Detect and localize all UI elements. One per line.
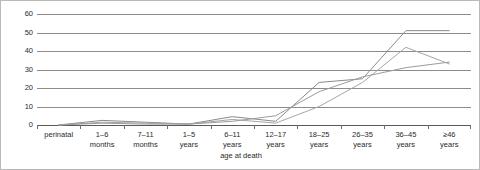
x-axis-title: age at death <box>1 151 480 160</box>
y-tick-label: 40 <box>7 47 33 55</box>
x-tick <box>470 125 471 129</box>
y-tick-label: 0 <box>7 121 33 129</box>
series-line <box>59 31 450 125</box>
x-tick <box>37 125 38 129</box>
plot-area <box>37 14 471 125</box>
x-tick-label: 12–17 years <box>254 130 297 149</box>
x-tick <box>297 125 298 129</box>
x-tick-label: 26–35 years <box>341 130 384 149</box>
x-tick <box>80 125 81 129</box>
x-tick-label: perinatal <box>37 130 80 140</box>
x-tick <box>384 125 385 129</box>
x-tick <box>124 125 125 129</box>
x-tick <box>428 125 429 129</box>
x-tick-label: 18–25 years <box>297 130 340 149</box>
x-tick <box>254 125 255 129</box>
x-tick <box>211 125 212 129</box>
series-line <box>59 62 450 125</box>
y-axis: 6050403020100 <box>1 14 33 125</box>
x-tick-label: 1–6 months <box>80 130 123 149</box>
x-tick <box>167 125 168 129</box>
series-line <box>59 47 450 125</box>
y-tick-label: 50 <box>7 29 33 37</box>
x-tick-label: ≥46 years <box>428 130 471 149</box>
x-tick-label: 6–11 years <box>211 130 254 149</box>
y-tick-label: 20 <box>7 84 33 92</box>
y-tick-label: 30 <box>7 66 33 74</box>
y-tick-label: 10 <box>7 103 33 111</box>
x-tick-label: 7–11 months <box>124 130 167 149</box>
x-tick-label: 36–45 years <box>384 130 427 149</box>
series-lines <box>37 14 471 125</box>
x-tick <box>341 125 342 129</box>
x-tick-label: 1–5 years <box>167 130 210 149</box>
line-chart-figure: 6050403020100 perinatal1–6 months7–11 mo… <box>0 0 480 170</box>
y-tick-label: 60 <box>7 10 33 18</box>
